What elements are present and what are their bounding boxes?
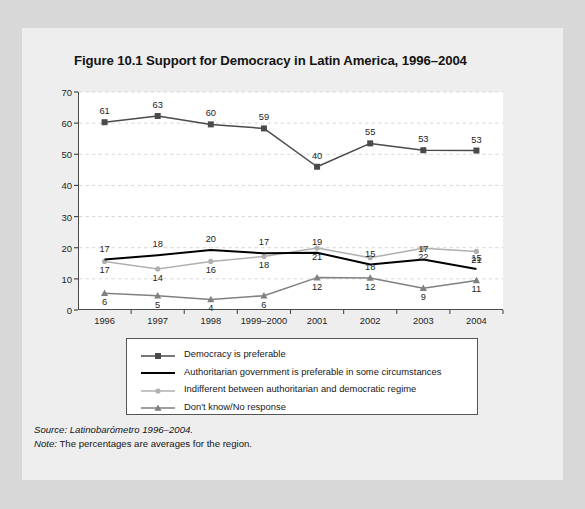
legend-item-1[interactable]: Authoritarian government is preferable i…: [127, 363, 477, 381]
chart-legend: Democracy is preferableAuthoritarian gov…: [126, 338, 478, 415]
data-point-marker: [420, 147, 426, 153]
source-value: Latinobarómetro 1996–2004.: [70, 424, 193, 435]
legend-marker-icon: [139, 348, 177, 360]
data-point-marker: [261, 125, 267, 131]
source-label: Source:: [34, 424, 67, 435]
chart-plot-area: 010203040506070 1996199719981999–2000200…: [78, 92, 503, 310]
legend-label: Indifferent between authoritarian and de…: [184, 383, 416, 394]
legend-label: Don't know/No response: [184, 401, 286, 412]
legend-marker-icon: [139, 383, 177, 395]
note-label: Note:: [34, 438, 57, 449]
legend-item-2[interactable]: Indifferent between authoritarian and de…: [127, 380, 477, 398]
figure-notes: Source: Latinobarómetro 1996–2004. Note:…: [34, 423, 534, 450]
y-axis-tick-label: 20: [50, 242, 72, 253]
data-point-marker: [102, 119, 108, 125]
figure-title: Figure 10.1 Support for Democracy in Lat…: [74, 53, 544, 68]
x-axis-tick-label: 1996: [94, 316, 115, 326]
legend-item-3[interactable]: Don't know/No response: [127, 398, 477, 416]
data-point-marker: [314, 164, 320, 170]
series-0: [102, 113, 480, 170]
series-line: [105, 248, 477, 269]
data-point-marker: [155, 266, 160, 271]
y-axis-tick-label: 50: [50, 149, 72, 160]
chart-svg: [78, 92, 503, 310]
x-axis-tick-label: 2003: [413, 316, 434, 326]
data-point-marker: [208, 121, 214, 127]
series-2: [102, 245, 479, 271]
source-line: Source: Latinobarómetro 1996–2004.: [34, 423, 534, 437]
legend-label: Democracy is preferable: [184, 348, 286, 359]
legend-label: Authoritarian government is preferable i…: [184, 366, 441, 377]
data-point-marker: [155, 353, 161, 359]
x-axis-tick-label: 2002: [360, 316, 381, 326]
data-point-marker: [155, 113, 161, 119]
y-axis-tick-label: 10: [50, 273, 72, 284]
y-axis-tick-label: 0: [50, 305, 72, 316]
figure-card: Figure 10.1 Support for Democracy in Lat…: [22, 28, 563, 480]
data-point-marker: [314, 245, 319, 250]
y-axis-tick-label: 40: [50, 180, 72, 191]
legend-marker-icon: [139, 365, 177, 377]
y-axis-tick-label: 30: [50, 211, 72, 222]
data-point-marker: [208, 259, 213, 264]
series-line: [105, 278, 477, 300]
note-line: Note: The percentages are averages for t…: [34, 437, 534, 451]
legend-item-0[interactable]: Democracy is preferable: [127, 345, 477, 363]
y-axis-tick-label: 60: [50, 118, 72, 129]
data-point-marker: [367, 140, 373, 146]
series-1: [105, 250, 477, 269]
x-axis-tick-label: 2004: [466, 316, 487, 326]
data-point-marker: [155, 388, 160, 393]
x-axis-tick-label: 1999–2000: [241, 316, 288, 326]
y-axis: 010203040506070: [48, 92, 72, 310]
data-point-marker: [261, 254, 266, 259]
x-axis-tick-label: 1997: [147, 316, 168, 326]
figure-card-inner: Figure 10.1 Support for Democracy in Lat…: [22, 28, 563, 480]
data-point-marker: [473, 277, 480, 283]
data-point-marker: [474, 249, 479, 254]
data-point-marker: [473, 148, 479, 154]
note-value: The percentages are averages for the reg…: [59, 438, 252, 449]
x-axis: 1996199719981999–20002001200220032004: [78, 316, 503, 332]
legend-marker-icon: [139, 400, 177, 412]
x-axis-tick-label: 1998: [200, 316, 221, 326]
data-point-marker: [368, 255, 373, 260]
series-3: [101, 274, 480, 302]
series-line: [105, 250, 477, 269]
y-axis-tick-label: 70: [50, 87, 72, 98]
data-point-marker: [421, 246, 426, 251]
x-axis-tick-label: 2001: [307, 316, 328, 326]
